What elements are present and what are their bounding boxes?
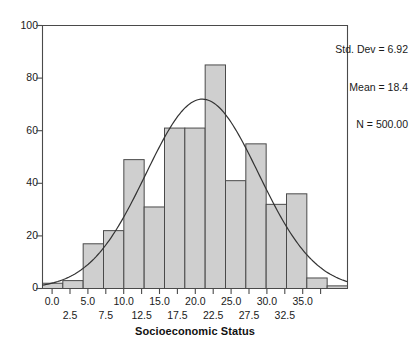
bar-bin-11	[266, 204, 286, 288]
bar-bin-10	[246, 144, 266, 289]
bar-bin-14	[327, 286, 347, 289]
legend-n: N = 500.00	[335, 118, 408, 131]
statistics-legend: Std. Dev = 6.92 Mean = 18.4 N = 500.00	[335, 18, 408, 156]
x-tick-label-30-0: 30.0	[247, 296, 287, 307]
x-tick-label-35-0: 35.0	[283, 296, 323, 307]
y-tick-marks	[36, 26, 43, 289]
x-tick-label-7-5: 7.5	[86, 310, 126, 321]
x-tick-label-25-0: 25.0	[211, 296, 251, 307]
x-tick-marks	[52, 289, 321, 295]
bar-bin-5	[144, 207, 164, 289]
bar-bin-4	[124, 160, 144, 289]
legend-std-dev: Std. Dev = 6.92	[335, 43, 408, 56]
bar-bin-6	[165, 128, 185, 288]
legend-mean: Mean = 18.4	[335, 81, 408, 94]
x-tick-label-2-5: 2.5	[50, 310, 90, 321]
x-tick-label-32-5: 32.5	[265, 310, 305, 321]
x-tick-label-15-0: 15.0	[140, 296, 180, 307]
histogram-figure: 100 80 60 40 20 0	[0, 0, 414, 355]
x-tick-label-0-0: 0.0	[32, 296, 72, 307]
bar-bin-8	[205, 65, 225, 289]
bar-bin-1	[63, 281, 83, 289]
x-axis-title: Socioeconomic Status	[0, 325, 390, 337]
bar-bin-7	[185, 128, 205, 288]
x-tick-label-5-0: 5.0	[68, 296, 108, 307]
bar-bin-9	[226, 181, 246, 289]
bar-bin-3	[104, 231, 124, 289]
x-tick-label-12-5: 12.5	[122, 310, 162, 321]
x-tick-label-10-0: 10.0	[104, 296, 144, 307]
x-tick-label-22-5: 22.5	[193, 310, 233, 321]
x-tick-label-20-0: 20.0	[175, 296, 215, 307]
x-tick-label-27-5: 27.5	[229, 310, 269, 321]
bar-bin-13	[307, 278, 327, 289]
x-tick-label-17-5: 17.5	[157, 310, 197, 321]
histogram-bars	[43, 65, 348, 289]
